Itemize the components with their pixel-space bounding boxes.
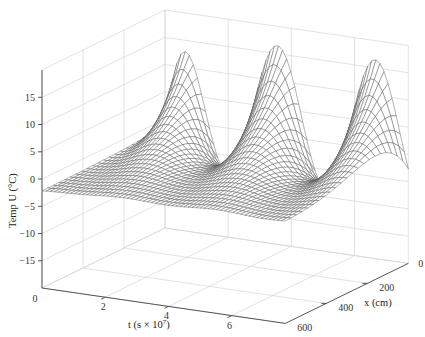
grid-line	[165, 10, 408, 45]
grid-line	[42, 228, 165, 288]
grid-line	[83, 268, 326, 303]
t-tick	[164, 306, 168, 308]
grid-line	[42, 201, 165, 261]
grid-line	[105, 237, 228, 297]
grid-line	[124, 248, 367, 283]
t-tick	[101, 297, 105, 299]
x-axis-label: x (cm)	[364, 297, 392, 309]
z-tick-label: 10	[25, 119, 35, 130]
t-tick	[228, 316, 232, 318]
grid-line	[42, 37, 165, 97]
surface-mesh	[42, 46, 408, 221]
z-tick-label: 15	[25, 92, 35, 103]
grid-line	[168, 246, 291, 306]
surface-plot: 151050−5−10−1502460200400600 Temp U (°C)…	[0, 0, 425, 337]
z-axis-label: Temp U (°C)	[7, 173, 19, 228]
t-axis-label: t (s × 107)	[128, 318, 170, 331]
z-tick-label: −10	[19, 228, 35, 239]
z-tick-label: 0	[30, 174, 35, 185]
z-tick-label: −5	[24, 201, 35, 212]
x-tick-label: 0	[418, 258, 423, 269]
grid-line	[42, 65, 165, 125]
grid-line	[232, 256, 355, 316]
x-tick-label: 400	[338, 302, 353, 313]
t-tick-label: 0	[33, 293, 38, 304]
x-tick-label: 200	[379, 282, 394, 293]
t-axis-label-close: )	[166, 319, 170, 331]
t-tick-label: 2	[101, 301, 106, 312]
grid-line	[165, 228, 408, 263]
z-tick-label: −15	[19, 255, 35, 266]
x-tick-label: 600	[297, 322, 312, 333]
t-tick-label: 6	[227, 320, 232, 331]
z-tick-label: 5	[30, 146, 35, 157]
t-axis-label-text: t (s × 10	[128, 319, 163, 331]
grid-line	[42, 10, 165, 70]
